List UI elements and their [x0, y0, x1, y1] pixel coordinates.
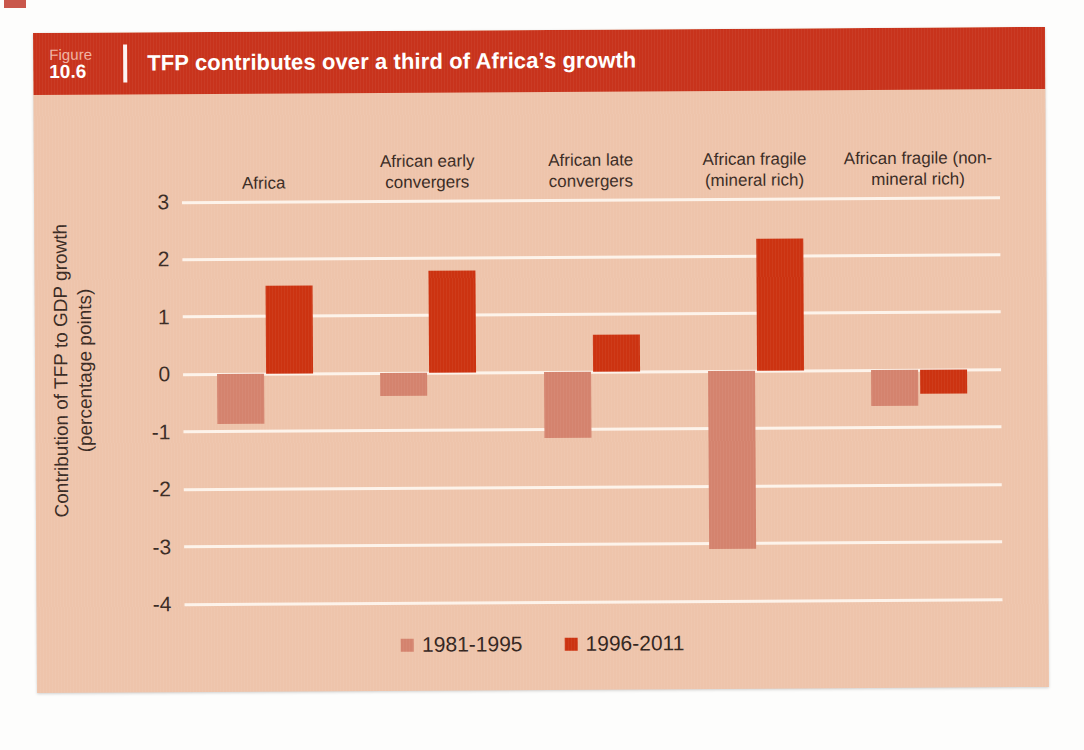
figure-title: TFP contributes over a third of Africa’s… [147, 47, 636, 76]
category-label: African fragile(mineral rich) [666, 149, 842, 191]
category-label-line: African fragile [666, 149, 842, 170]
page-canvas: Figure 10.6 TFP contributes over a third… [0, 0, 1084, 750]
y-axis-tick-label: -2 [152, 477, 171, 501]
figure-number: 10.6 [49, 61, 121, 81]
category-label: African lateconvergers [503, 150, 679, 192]
legend-label: 1981-1995 [422, 632, 523, 657]
bar-1996-2011-Africa [265, 286, 313, 374]
category-label-line: convergers [503, 171, 679, 192]
y-axis-tick-label: 1 [158, 305, 170, 329]
legend-swatch [401, 638, 414, 651]
y-axis-title-line1: Contribution of TFP to GDP growth [48, 181, 74, 561]
legend-item[interactable]: 1981-1995 [401, 632, 523, 657]
category-label-line: (mineral rich) [666, 170, 842, 191]
category-label-line: mineral rich) [830, 169, 1006, 190]
bar-1981-1995-African early convergers [380, 373, 427, 396]
plot-region: Contribution of TFP to GDP growth (perce… [33, 89, 1049, 693]
bar-groups: AfricaAfrican earlyconvergersAfrican lat… [182, 197, 1002, 604]
category-label-line: African fragile (non- [830, 148, 1006, 169]
bar-1996-2011-African fragile (mineral rich) [756, 239, 804, 371]
category-label: Africa [176, 173, 352, 194]
bar-group: African fragile(mineral rich) [673, 198, 839, 601]
legend-label: 1996-2011 [585, 631, 684, 656]
chart-legend: 1981-19951996-2011 [37, 629, 1049, 659]
y-axis-tick-label: 3 [157, 190, 169, 214]
bar-1996-2011-African early convergers [429, 270, 477, 373]
plot-area: 3210-1-2-3-4 AfricaAfrican earlyconverge… [182, 197, 1002, 604]
category-label-line: Africa [176, 173, 352, 194]
bar-group: African lateconvergers [509, 199, 675, 602]
bar-1981-1995-African fragile (mineral rich) [708, 371, 756, 549]
category-label-line: African early [339, 151, 515, 172]
y-axis-tick-label: 0 [158, 363, 170, 387]
y-axis-title: Contribution of TFP to GDP growth (perce… [48, 180, 98, 560]
category-label: African earlyconvergers [339, 151, 515, 193]
figure-header-bar: Figure 10.6 TFP contributes over a third… [33, 27, 1045, 95]
bar-1981-1995-Africa [217, 374, 264, 424]
bar-1996-2011-African late convergers [593, 334, 640, 372]
y-axis-tick-label: -3 [152, 535, 171, 559]
bar-group: Africa [182, 201, 348, 604]
bar-1981-1995-African late convergers [544, 372, 591, 438]
category-label: African fragile (non-mineral rich) [830, 148, 1006, 190]
bar-group: African fragile (non-mineral rich) [836, 197, 1002, 600]
category-label-line: African late [503, 150, 679, 171]
figure-panel: Figure 10.6 TFP contributes over a third… [33, 27, 1049, 693]
y-axis-tick-label: 2 [158, 248, 170, 272]
bar-1981-1995-African fragile (non-mineral rich) [871, 370, 918, 406]
legend-swatch [564, 637, 577, 650]
figure-number-block: Figure 10.6 [33, 46, 121, 82]
y-axis-tick-label: -1 [152, 420, 171, 444]
page-edge-artifact [4, 0, 26, 8]
bar-group: African earlyconvergers [346, 200, 512, 603]
legend-item[interactable]: 1996-2011 [564, 631, 684, 656]
category-label-line: convergers [339, 172, 515, 193]
y-axis-tick-label: -4 [153, 592, 172, 616]
header-divider [123, 45, 127, 83]
y-axis-title-line2: (percentage points) [72, 180, 98, 560]
figure-label: Figure [49, 46, 121, 62]
bar-1996-2011-African fragile (non-mineral rich) [920, 370, 967, 394]
